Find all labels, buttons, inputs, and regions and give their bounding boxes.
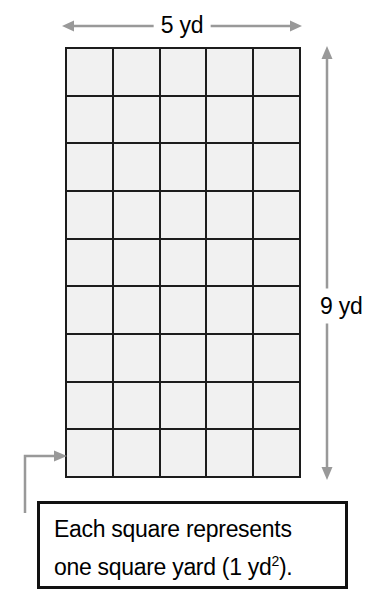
- grid-cell: [161, 287, 206, 333]
- width-dimension: 5 yd: [62, 10, 302, 42]
- diagram-canvas: 5 yd 9 yd Each square represents one squ…: [0, 0, 372, 610]
- width-dimension-label: 5 yd: [154, 10, 211, 40]
- grid-cell: [67, 97, 112, 143]
- grid-cell: [207, 287, 252, 333]
- caption-line-2-prefix: one square yard (1 yd: [54, 554, 271, 580]
- grid-cell: [254, 192, 299, 238]
- grid-cell: [254, 383, 299, 429]
- grid-cell: [114, 430, 159, 476]
- grid-cells-container: [65, 47, 301, 478]
- caption-line-2-suffix: ).: [279, 554, 292, 580]
- grid-cell: [161, 240, 206, 286]
- caption-box: Each square represents one square yard (…: [37, 501, 348, 589]
- grid-cell: [254, 97, 299, 143]
- grid-cell: [207, 192, 252, 238]
- grid-cell: [161, 144, 206, 190]
- grid-cell: [254, 49, 299, 95]
- grid-cell: [67, 240, 112, 286]
- height-dimension: 9 yd: [312, 45, 342, 481]
- grid-cell: [114, 144, 159, 190]
- grid-cell: [67, 383, 112, 429]
- grid-cell: [207, 430, 252, 476]
- grid-cell: [161, 430, 206, 476]
- grid-cell: [67, 144, 112, 190]
- height-dimension-label: 9 yd: [320, 289, 363, 324]
- grid-cell: [114, 240, 159, 286]
- grid-cell: [67, 335, 112, 381]
- grid-cell: [114, 335, 159, 381]
- grid-cell: [207, 97, 252, 143]
- grid-cell: [254, 240, 299, 286]
- grid-cell: [161, 383, 206, 429]
- grid-cell: [207, 335, 252, 381]
- caption-exponent: 2: [271, 553, 279, 569]
- grid-cell: [161, 335, 206, 381]
- double-headed-vertical-arrow-icon: [312, 45, 342, 481]
- unit-square-grid: [65, 47, 301, 478]
- grid-cell: [114, 383, 159, 429]
- grid-cell: [254, 287, 299, 333]
- grid-cell: [114, 287, 159, 333]
- grid-cell: [254, 335, 299, 381]
- grid-cell: [254, 430, 299, 476]
- grid-cell: [207, 49, 252, 95]
- grid-cell: [67, 49, 112, 95]
- caption-line-1: Each square represents: [54, 510, 333, 548]
- caption-line-2: one square yard (1 yd2).: [54, 548, 333, 586]
- grid-cell: [67, 192, 112, 238]
- grid-cell: [114, 49, 159, 95]
- grid-cell: [207, 383, 252, 429]
- grid-cell: [114, 97, 159, 143]
- grid-cell: [207, 144, 252, 190]
- grid-cell: [161, 97, 206, 143]
- grid-cell: [161, 192, 206, 238]
- grid-cell: [161, 49, 206, 95]
- grid-cell: [254, 144, 299, 190]
- grid-cell: [114, 192, 159, 238]
- grid-cell: [207, 240, 252, 286]
- grid-cell: [67, 287, 112, 333]
